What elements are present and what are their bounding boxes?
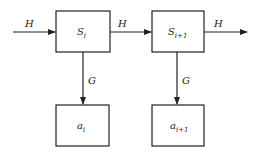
between-label: H [117,18,127,29]
down-right-label: G [182,75,190,86]
output-label: H [213,18,223,29]
input-label: H [24,18,34,29]
down-left-label: G [88,75,96,86]
diagram-canvas: H Si H Si+1 H G G ai ai+1 [0,0,257,155]
